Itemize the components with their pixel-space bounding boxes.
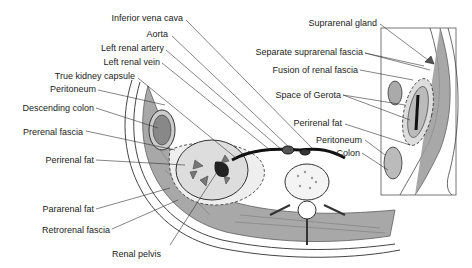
label-left-renal-artery: Left renal artery bbox=[90, 43, 164, 53]
label-left-renal-vein: Left renal vein bbox=[90, 57, 160, 67]
label-descending-colon: Descending colon bbox=[10, 103, 94, 113]
anatomy-figure: Inferior vena cava Aorta Left renal arte… bbox=[0, 0, 472, 268]
label-renal-pelvis: Renal pelvis bbox=[112, 249, 161, 259]
label-inferior-vena-cava: Inferior vena cava bbox=[110, 13, 183, 23]
label-space-of-gerota: Space of Gerota bbox=[270, 90, 341, 100]
label-separate-suprarenal-fascia: Separate suprarenal fascia bbox=[250, 47, 363, 57]
label-inset-peritoneum: Peritoneum bbox=[300, 135, 362, 145]
label-prerenal-fascia: Prerenal fascia bbox=[15, 127, 83, 137]
label-perirenal-fat: Perirenal fat bbox=[30, 155, 94, 165]
label-inset-perirenal-fat: Perirenal fat bbox=[280, 118, 342, 128]
label-pararenal-fat: Pararenal fat bbox=[30, 204, 94, 214]
label-peritoneum: Peritoneum bbox=[40, 84, 96, 94]
label-inset-colon: Colon bbox=[320, 148, 360, 158]
label-true-kidney-capsule: True kidney capsule bbox=[45, 71, 135, 81]
label-suprarenal-gland: Suprarenal gland bbox=[300, 18, 377, 28]
label-retrorenal-fascia: Retrorenal fascia bbox=[30, 225, 110, 235]
label-fusion-of-renal-fascia: Fusion of renal fascia bbox=[260, 65, 358, 75]
label-aorta: Aorta bbox=[130, 29, 168, 39]
